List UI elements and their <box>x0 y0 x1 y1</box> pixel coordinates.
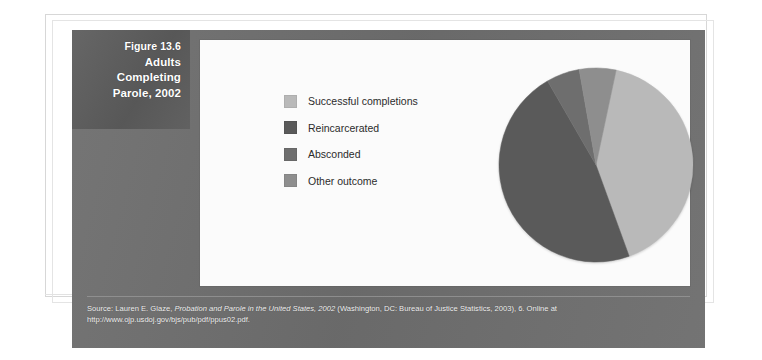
legend-item-reincarcerated: Reincarcerated <box>284 120 418 136</box>
legend-item-label: Reincarcerated <box>308 122 379 134</box>
legend-item-label: Other outcome <box>308 175 377 187</box>
figure-number: Figure 13.6 <box>78 39 181 55</box>
figure-page: Figure 13.6 Adults Completing Parole, 20… <box>0 0 762 360</box>
chart-canvas: Successful completions Reincarcerated Ab… <box>200 40 690 286</box>
figure-title-line-1: Adults <box>78 55 181 71</box>
chart-legend: Successful completions Reincarcerated Ab… <box>284 93 418 199</box>
source-citation: Source: Lauren E. Glaze, Probation and P… <box>87 303 687 325</box>
legend-swatch-icon <box>284 174 297 187</box>
pie-slice-group <box>499 68 693 262</box>
source-title-italic: Probation and Parole in the United State… <box>174 304 335 313</box>
legend-swatch-icon <box>284 95 297 108</box>
legend-swatch-icon <box>284 148 297 161</box>
legend-swatch-icon <box>284 121 297 134</box>
legend-item-label: Successful completions <box>308 95 418 107</box>
source-divider <box>87 296 690 297</box>
legend-item-label: Absconded <box>308 148 361 160</box>
source-line-2-url: http://www.ojp.usdoj.gov/bjs/pub/pdf/ppu… <box>87 314 687 325</box>
figure-panel: Figure 13.6 Adults Completing Parole, 20… <box>72 30 705 348</box>
pie-chart-svg <box>496 65 696 265</box>
legend-item-absconded: Absconded <box>284 146 418 162</box>
source-line-1: Source: Lauren E. Glaze, Probation and P… <box>87 303 687 314</box>
source-suffix: (Washington, DC: Bureau of Justice Stati… <box>335 304 557 313</box>
pie-chart <box>496 65 696 265</box>
legend-item-successful-completions: Successful completions <box>284 93 418 109</box>
figure-title-line-3: Parole, 2002 <box>78 86 181 102</box>
legend-item-other-outcome: Other outcome <box>284 173 418 189</box>
figure-title-line-2: Completing <box>78 70 181 86</box>
figure-title-block: Figure 13.6 Adults Completing Parole, 20… <box>72 30 190 129</box>
source-prefix: Source: Lauren E. Glaze, <box>87 304 174 313</box>
